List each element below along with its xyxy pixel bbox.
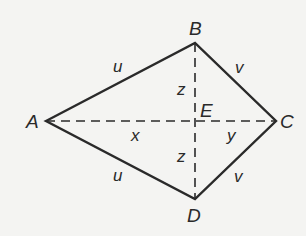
segment-label-be: z [176, 80, 186, 99]
vertex-label-e: E [200, 100, 213, 121]
vertex-label-b: B [189, 18, 202, 39]
side-label-dc: v [234, 167, 244, 186]
side-label-ad: u [113, 166, 123, 185]
side-label-ab: u [113, 57, 123, 76]
kite-diagram: A B C D E u u v v x y z z [0, 0, 306, 236]
segment-label-ec: y [226, 126, 237, 145]
segment-label-ae: x [130, 126, 140, 145]
vertex-label-c: C [280, 111, 294, 132]
side-label-bc: v [235, 58, 245, 77]
vertex-label-a: A [25, 111, 39, 132]
vertex-label-d: D [187, 205, 201, 226]
diagram-svg: A B C D E u u v v x y z z [0, 0, 306, 236]
segment-label-ed: z [176, 147, 186, 166]
